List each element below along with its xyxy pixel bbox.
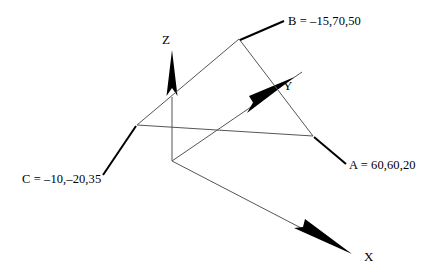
diagram-canvas: [0, 0, 439, 278]
z-axis-arrowhead: [167, 50, 178, 96]
triangle-edge-ba: [239, 39, 313, 136]
point-label-b: B = –15,70,50: [288, 15, 361, 28]
leader-lines-group: [103, 21, 346, 175]
y-axis-label: Y: [283, 79, 293, 92]
axes-group: [167, 50, 353, 254]
triangle-edge-ca: [137, 125, 313, 136]
x-axis-arrowhead: [294, 219, 352, 254]
z-axis-label: Z: [162, 33, 170, 46]
coordinate-diagram: Z Y X B = –15,70,50 A = 60,60,20 C = –10…: [0, 0, 439, 278]
leader-line-a: [314, 137, 346, 164]
leader-line-b: [240, 21, 284, 40]
point-label-a: A = 60,60,20: [349, 159, 416, 172]
x-axis-label: X: [364, 250, 374, 263]
triangle-edge-cb: [137, 39, 239, 125]
leader-line-c: [103, 126, 136, 175]
point-label-c: C = –10,–20,35: [22, 173, 101, 186]
